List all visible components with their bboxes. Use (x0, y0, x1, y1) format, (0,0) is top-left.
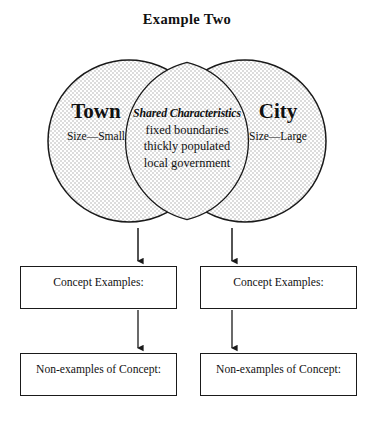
concept-examples-label-left: Concept Examples: (53, 267, 143, 290)
concept-examples-label-right: Concept Examples: (233, 267, 323, 290)
concept-examples-box-right[interactable]: Concept Examples: (200, 266, 357, 309)
venn-shared-line-3: local government (129, 155, 245, 172)
venn-shared-line-2: thickly populated (129, 138, 245, 155)
non-examples-box-right[interactable]: Non-examples of Concept: (200, 353, 357, 396)
non-examples-label-right: Non-examples of Concept: (216, 354, 341, 377)
diagram-canvas: Example Two Town Size—Small City Size—La… (0, 0, 374, 430)
concept-examples-box-left[interactable]: Concept Examples: (20, 266, 177, 309)
non-examples-box-left[interactable]: Non-examples of Concept: (20, 353, 177, 396)
non-examples-label-left: Non-examples of Concept: (36, 354, 161, 377)
venn-shared-heading: Shared Characteristics (129, 106, 245, 122)
venn-shared-characteristics: Shared Characteristics fixed boundaries … (129, 106, 245, 172)
venn-shared-line-1: fixed boundaries (129, 122, 245, 139)
